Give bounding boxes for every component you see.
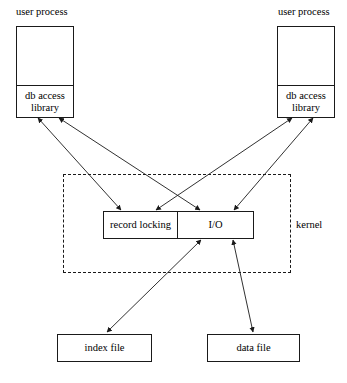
db-access-library-right-label: db access library: [278, 85, 334, 117]
user-process-right-body: [278, 27, 334, 85]
user-process-left-caption: user process: [16, 7, 68, 18]
db-access-library-left-label: db access library: [17, 85, 73, 117]
node-data-file[interactable]: data file: [207, 334, 300, 362]
node-kernel-services[interactable]: record locking I/O: [103, 211, 254, 239]
kernel-region-label: kernel: [296, 220, 322, 231]
user-process-left-body: [17, 27, 73, 85]
node-user-process-right[interactable]: db access library: [277, 26, 335, 118]
data-file-label: data file: [208, 335, 299, 361]
node-user-process-left[interactable]: db access library: [16, 26, 74, 118]
diagram-canvas: user process db access library user proc…: [0, 0, 347, 383]
io-label[interactable]: I/O: [178, 212, 253, 238]
node-index-file[interactable]: index file: [57, 334, 152, 362]
index-file-label: index file: [58, 335, 151, 361]
record-locking-label[interactable]: record locking: [104, 212, 178, 238]
user-process-right-caption: user process: [278, 7, 330, 18]
